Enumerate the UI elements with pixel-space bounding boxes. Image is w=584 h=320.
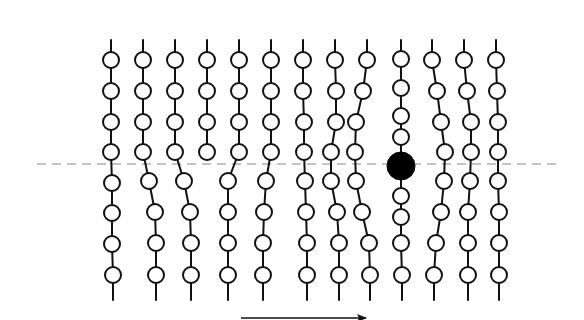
node-circle <box>462 173 478 189</box>
chain-backbone <box>111 40 113 300</box>
node-circle <box>105 267 121 283</box>
chain-1 <box>103 40 121 300</box>
chain-backbone <box>496 40 499 300</box>
node-circle <box>428 235 444 251</box>
node-circle <box>331 267 347 283</box>
node-circle <box>489 83 505 99</box>
node-circle <box>263 144 279 160</box>
node-circle <box>148 235 164 251</box>
node-circle <box>135 83 151 99</box>
node-circle <box>199 83 215 99</box>
node-circle <box>199 114 215 130</box>
node-circle <box>347 144 363 160</box>
node-circle <box>135 144 151 160</box>
solid-node-circle <box>387 152 415 180</box>
node-circle <box>362 267 378 283</box>
node-circle <box>182 204 198 220</box>
node-circle <box>231 114 247 130</box>
node-circle <box>220 235 236 251</box>
node-circle <box>298 204 314 220</box>
chain-2 <box>135 40 164 300</box>
node-circle <box>299 267 315 283</box>
chain-backbone <box>464 40 471 300</box>
node-circle <box>296 114 312 130</box>
node-circle <box>148 267 164 283</box>
node-circle <box>394 267 410 283</box>
node-circle <box>490 144 506 160</box>
node-circle <box>135 52 151 68</box>
chain-backbone <box>143 40 156 300</box>
node-circle <box>220 204 236 220</box>
chain-13 <box>456 40 479 300</box>
node-circle <box>490 173 506 189</box>
node-circle <box>299 235 315 251</box>
node-circle <box>199 144 215 160</box>
node-circle <box>255 267 271 283</box>
node-circle <box>355 83 371 99</box>
polymer-chains <box>103 40 507 300</box>
node-circle <box>331 235 347 251</box>
node-circle <box>297 173 313 189</box>
chain-5 <box>220 152 239 300</box>
node-circle <box>135 114 151 130</box>
node-circle <box>147 204 163 220</box>
node-circle <box>104 236 120 252</box>
node-circle <box>296 144 312 160</box>
node-circle <box>348 173 364 189</box>
node-circle <box>393 108 409 124</box>
node-circle <box>393 51 409 67</box>
node-circle <box>393 80 409 96</box>
node-circle <box>263 52 279 68</box>
node-circle <box>460 267 476 283</box>
node-circle <box>295 83 311 99</box>
node-circle <box>323 144 339 160</box>
node-circle <box>436 173 452 189</box>
node-circle <box>488 52 504 68</box>
node-circle <box>323 173 339 189</box>
node-circle <box>263 114 279 130</box>
chain-lattice-canvas <box>0 0 584 320</box>
node-circle <box>463 114 479 130</box>
node-circle <box>393 209 409 225</box>
chain-3 <box>167 40 199 300</box>
node-circle <box>361 235 377 251</box>
node-circle <box>167 114 183 130</box>
node-circle <box>429 83 445 99</box>
node-circle <box>103 144 119 160</box>
node-circle <box>104 175 120 191</box>
node-circle <box>103 114 119 130</box>
node-circle <box>231 83 247 99</box>
node-circle <box>359 52 375 68</box>
node-circle <box>183 267 199 283</box>
node-circle <box>490 114 506 130</box>
node-circle <box>103 83 119 99</box>
node-circle <box>220 173 236 189</box>
node-circle <box>393 235 409 251</box>
chain-9 <box>323 40 347 300</box>
chain-backbone <box>355 40 370 300</box>
node-circle <box>328 114 344 130</box>
chain-backbone <box>303 40 307 300</box>
node-circle <box>167 52 183 68</box>
node-circle <box>460 204 476 220</box>
chain-4 <box>199 40 215 160</box>
dislocation-diagram <box>0 0 584 320</box>
node-circle <box>231 144 247 160</box>
chain-backbone <box>263 40 271 300</box>
node-circle <box>491 204 507 220</box>
node-circle <box>220 267 236 283</box>
node-circle <box>176 173 192 189</box>
node-circle <box>141 173 157 189</box>
node-circle <box>433 114 449 130</box>
node-circle <box>329 204 345 220</box>
node-circle <box>167 144 183 160</box>
chain-7 <box>255 40 279 300</box>
node-circle <box>256 204 272 220</box>
node-circle <box>348 114 364 130</box>
node-circle <box>491 267 507 283</box>
node-circle <box>426 267 442 283</box>
chain-backbone <box>432 40 445 300</box>
node-circle <box>103 52 119 68</box>
node-circle <box>354 204 370 220</box>
node-circle <box>183 235 199 251</box>
